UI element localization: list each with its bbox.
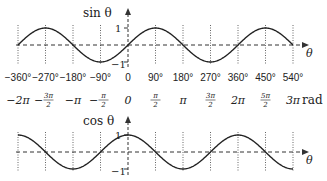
- radian-label-numerator: π: [152, 92, 158, 100]
- radian-label: 3π: [286, 94, 301, 107]
- degree-labels: −360°−270°−180°−90°090°180°270°360°450°5…: [5, 72, 304, 83]
- value-axis-arrow-icon: [125, 116, 131, 123]
- chart-canvas: 1−1sin θθ1−1cos θθ−360°−270°−180°−90°090…: [0, 0, 327, 181]
- sine-cosine-figure: 1−1sin θθ1−1cos θθ−360°−270°−180°−90°090…: [0, 0, 327, 181]
- tick-label-pos: 1: [115, 23, 121, 34]
- radian-label-denominator: 2: [100, 101, 106, 109]
- radian-label: 0: [125, 94, 132, 107]
- radian-label-denominator: 2: [45, 101, 51, 109]
- degree-label: 450°: [255, 72, 276, 83]
- degree-label: 540°: [283, 72, 304, 83]
- radian-label: π: [178, 94, 187, 107]
- function-label: cos θ: [83, 114, 114, 128]
- degree-label: 180°: [173, 72, 194, 83]
- theta-label: θ: [306, 47, 313, 60]
- radian-label-numerator: 3π: [206, 92, 215, 100]
- theta-label: θ: [306, 154, 313, 167]
- degree-label: −270°: [32, 72, 59, 83]
- radian-labels: −2π−3π2−π−π20π2π3π22π5π23πrad: [6, 92, 323, 109]
- radian-label-numerator: 3π: [44, 92, 53, 100]
- tick-label-neg: −1: [111, 166, 126, 177]
- degree-label: 0: [125, 72, 131, 83]
- degree-label: 270°: [200, 72, 221, 83]
- radian-label-denominator: 2: [207, 101, 213, 109]
- radian-label-numerator: 5π: [261, 92, 270, 100]
- degree-label: 360°: [228, 72, 249, 83]
- function-label: sin θ: [83, 6, 112, 20]
- sin-plot: 1−1sin θθ: [16, 6, 313, 70]
- radian-label: 2π: [230, 94, 246, 107]
- degree-label: 90°: [148, 72, 163, 83]
- radian-label: −2π: [6, 94, 30, 107]
- svg-text:−: −: [89, 94, 98, 107]
- radian-label-denominator: 2: [152, 101, 158, 109]
- radian-label: −π: [65, 94, 82, 107]
- svg-text:−: −: [34, 94, 43, 107]
- value-axis-arrow-icon: [125, 8, 131, 15]
- degree-label: −180°: [60, 72, 87, 83]
- tick-label-neg: −1: [111, 59, 126, 70]
- radian-label-numerator: π: [100, 92, 106, 100]
- degree-label: −360°: [5, 72, 32, 83]
- cos-plot: 1−1cos θθ: [16, 114, 313, 177]
- degree-label: −90°: [90, 72, 111, 83]
- radian-label-denominator: 2: [262, 101, 268, 109]
- radian-unit-label: rad: [302, 93, 323, 107]
